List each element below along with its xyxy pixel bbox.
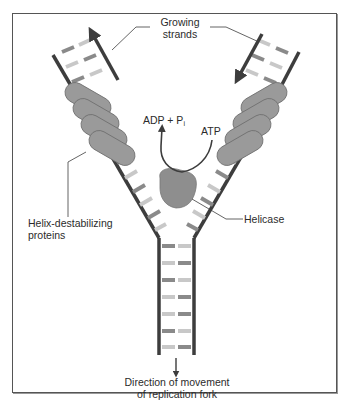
parental-duplex [159, 238, 194, 355]
replication-fork-diagram [0, 0, 346, 415]
fork-arm-right [187, 150, 245, 238]
label-growing-strands: Growing strands [148, 16, 212, 40]
helicase [160, 168, 197, 208]
left-arm-bases [117, 156, 166, 230]
label-adp-pi: ADP + Pi [143, 114, 185, 130]
leader-growing-right [210, 27, 259, 42]
right-ladder-bases [246, 40, 288, 83]
helix-destabilizing-proteins-right [213, 79, 290, 169]
helix-destabilizing-proteins-left [61, 79, 138, 169]
label-direction-of-movement: Direction of movement of replication for… [106, 376, 248, 400]
leader-helix-destab [68, 152, 86, 217]
left-ladder-bases [62, 40, 102, 82]
label-atp: ATP [201, 125, 221, 137]
leader-growing-left [112, 27, 150, 50]
fork-arm-left [108, 150, 166, 238]
label-helix-destabilizing-proteins: Helix-destabilizing proteins [28, 217, 113, 241]
label-helicase: Helicase [244, 213, 284, 225]
duplex-base-pairs [162, 244, 191, 349]
